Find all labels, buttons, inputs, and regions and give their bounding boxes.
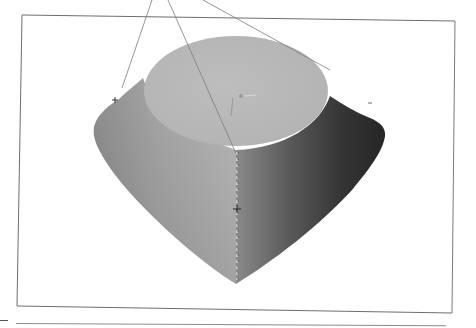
render-viewport [0, 0, 476, 328]
left-tick-mark [0, 320, 8, 321]
render-canvas [0, 0, 476, 328]
shape-top-face [144, 36, 328, 146]
